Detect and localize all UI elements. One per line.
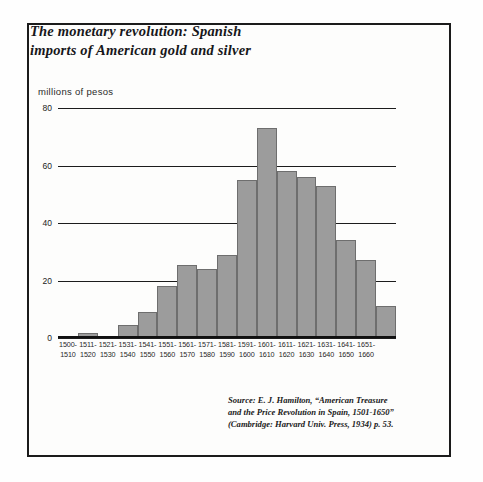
bar xyxy=(277,171,297,338)
x-axis-category-line: 1581- xyxy=(217,340,237,350)
x-axis-tick-labels: 1500-15101511-15201521-15301531-15401541… xyxy=(58,340,396,359)
y-axis-tick-label: 60 xyxy=(43,161,52,171)
x-axis-category-line: 1611- xyxy=(277,340,297,350)
bar-cell xyxy=(157,108,177,338)
bar-cell xyxy=(177,108,197,338)
x-axis-category-label: 1631-1640 xyxy=(316,340,336,359)
x-axis-category-label: 1581-1590 xyxy=(217,340,237,359)
x-axis-category-line: 1621- xyxy=(297,340,317,350)
x-axis-category-label xyxy=(376,340,396,359)
x-axis-category-line: 1560 xyxy=(157,350,177,360)
x-axis-category-line: 1590 xyxy=(217,350,237,360)
bar-cell xyxy=(336,108,356,338)
x-axis-category-line: 1630 xyxy=(297,350,317,360)
x-axis-line xyxy=(58,336,396,338)
x-axis-category-line: 1540 xyxy=(118,350,138,360)
x-axis-category-line: 1650 xyxy=(336,350,356,360)
y-axis-tick-label: 80 xyxy=(43,103,52,113)
x-axis-category-line: 1571- xyxy=(197,340,217,350)
x-axis-category-line: 1551- xyxy=(157,340,177,350)
x-axis-category-label: 1561-1570 xyxy=(177,340,197,359)
bar xyxy=(297,177,317,338)
y-axis-tick-label: 40 xyxy=(43,218,52,228)
x-axis-category-label: 1641-1650 xyxy=(336,340,356,359)
plot-area: 020406080 1500-15101511-15201521-1530153… xyxy=(10,100,414,370)
figure-title: The monetary revolution: Spanish imports… xyxy=(30,22,370,60)
x-axis-category-line: 1530 xyxy=(98,350,118,360)
source-line-2: and the Price Revolution in Spain, 1501-… xyxy=(228,406,428,418)
x-axis-category-line: 1570 xyxy=(177,350,197,360)
x-axis-category-line: 1591- xyxy=(237,340,257,350)
x-axis-category-line: 1541- xyxy=(138,340,158,350)
bar xyxy=(257,128,277,338)
bar-cell xyxy=(138,108,158,338)
bar-cell xyxy=(376,108,396,338)
y-axis-tick-label: 20 xyxy=(43,276,52,286)
bar-cell xyxy=(237,108,257,338)
bar-cell xyxy=(58,108,78,338)
x-axis-category-line: 1521- xyxy=(98,340,118,350)
bar-cell xyxy=(316,108,336,338)
x-axis-category-line: 1550 xyxy=(138,350,158,360)
title-line-2: imports of American gold and silver xyxy=(30,41,370,60)
x-axis-category-label: 1611-1620 xyxy=(277,340,297,359)
bar-cell xyxy=(197,108,217,338)
bar-series xyxy=(58,108,396,338)
bar xyxy=(177,265,197,338)
bar-cell xyxy=(257,108,277,338)
x-axis-category-line: 1640 xyxy=(316,350,336,360)
bar xyxy=(237,180,257,338)
x-axis-category-label: 1621-1630 xyxy=(297,340,317,359)
x-axis-category-line: 1631- xyxy=(316,340,336,350)
x-axis-category-line: 1561- xyxy=(177,340,197,350)
bar-cell xyxy=(217,108,237,338)
x-axis-category-line: 1620 xyxy=(277,350,297,360)
bar-cell xyxy=(356,108,376,338)
bar xyxy=(157,286,177,338)
x-axis-category-line: 1641- xyxy=(336,340,356,350)
x-axis-category-line: 1500- xyxy=(58,340,78,350)
title-line-1: The monetary revolution: Spanish xyxy=(30,22,370,41)
source-line-1: Source: E. J. Hamilton, “American Treasu… xyxy=(228,394,428,406)
x-axis-category-line: 1651- xyxy=(356,340,376,350)
x-axis-category-label: 1531-1540 xyxy=(118,340,138,359)
x-axis-category-label: 1511-1520 xyxy=(78,340,98,359)
bar xyxy=(376,306,396,338)
x-axis-category-line: 1510 xyxy=(58,350,78,360)
x-axis-category-label: 1591-1600 xyxy=(237,340,257,359)
x-axis-category-label: 1500-1510 xyxy=(58,340,78,359)
x-axis-category-line: 1580 xyxy=(197,350,217,360)
bar xyxy=(138,312,158,338)
bar xyxy=(336,240,356,338)
x-axis-category-label: 1551-1560 xyxy=(157,340,177,359)
bar-cell xyxy=(78,108,98,338)
x-axis-category-line: 1511- xyxy=(78,340,98,350)
bar-cell xyxy=(98,108,118,338)
x-axis-category-label: 1521-1530 xyxy=(98,340,118,359)
x-axis-category-label: 1541-1550 xyxy=(138,340,158,359)
plot-canvas: 020406080 xyxy=(58,108,396,338)
bar xyxy=(197,269,217,338)
x-axis-category-label: 1651-1660 xyxy=(356,340,376,359)
y-axis-unit-label: millions of pesos xyxy=(38,86,113,97)
bar xyxy=(316,186,336,338)
x-axis-category-line: 1660 xyxy=(356,350,376,360)
x-axis-category-line: 1601- xyxy=(257,340,277,350)
bar-cell xyxy=(297,108,317,338)
x-axis-category-label: 1601-1610 xyxy=(257,340,277,359)
figure-page: The monetary revolution: Spanish imports… xyxy=(0,0,483,482)
bar-cell xyxy=(118,108,138,338)
x-axis-category-line: 1600 xyxy=(237,350,257,360)
bar xyxy=(356,260,376,338)
source-line-3: (Cambridge: Harvard Univ. Press, 1934) p… xyxy=(228,418,428,430)
x-axis-category-line: 1610 xyxy=(257,350,277,360)
bar-cell xyxy=(277,108,297,338)
y-axis-tick-label: 0 xyxy=(47,333,52,343)
source-citation: Source: E. J. Hamilton, “American Treasu… xyxy=(228,394,428,430)
x-axis-category-label: 1571-1580 xyxy=(197,340,217,359)
bar xyxy=(217,255,237,338)
x-axis-category-line: 1531- xyxy=(118,340,138,350)
x-axis-category-line: 1520 xyxy=(78,350,98,360)
